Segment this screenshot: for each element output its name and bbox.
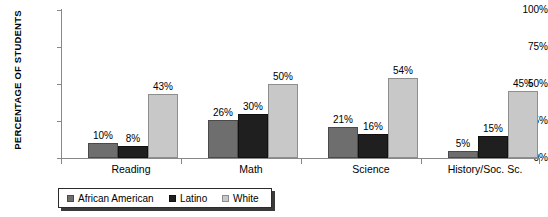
bar-value-history-white: 45% [503,78,543,89]
legend-swatch-white-icon [222,195,229,202]
legend-label-white: White [233,193,259,204]
bar-science-latino [358,134,388,158]
legend-label-african-american: African American [78,193,154,204]
legend-item-latino: Latino [169,192,207,205]
bar-reading-african-american [88,143,118,158]
bar-value-history-latino: 15% [473,123,513,134]
legend-swatch-african-american-icon [67,195,74,202]
bar-math-african-american [208,120,238,158]
bar-reading-white [148,94,178,158]
x-tick-mark-0 [61,159,62,164]
bar-value-science-latino: 16% [353,121,393,132]
chart-legend: African American Latino White [58,188,272,208]
bar-value-history-african-american: 5% [443,138,483,149]
x-group-label-history: History/Soc. Sc. [425,163,545,175]
bar-math-white [268,84,298,158]
bar-value-reading-latino: 8% [113,133,153,144]
legend-item-white: White [222,192,259,205]
bar-history-african-american [448,151,478,158]
plot-area: 10% 8% 43% 26% 30% 50% 21% 16% 54% 5% 15… [62,10,540,158]
y-axis-title: PERCENTAGE OF STUDENTS [13,0,23,160]
bar-value-math-white: 50% [263,71,303,82]
x-group-label-math: Math [191,163,311,175]
x-group-label-science: Science [311,163,431,175]
x-group-label-reading: Reading [71,163,191,175]
bar-value-reading-white: 43% [143,81,183,92]
bar-math-latino [238,114,268,158]
bar-chart: PERCENTAGE OF STUDENTS 100% 75% 50% 25% … [0,0,548,217]
legend-swatch-latino-icon [169,195,176,202]
bar-reading-latino [118,146,148,158]
bar-value-math-latino: 30% [233,101,273,112]
bar-science-white [388,78,418,158]
legend-label-latino: Latino [180,193,207,204]
legend-item-african-american: African American [67,192,154,205]
bar-value-science-white: 54% [383,65,423,76]
